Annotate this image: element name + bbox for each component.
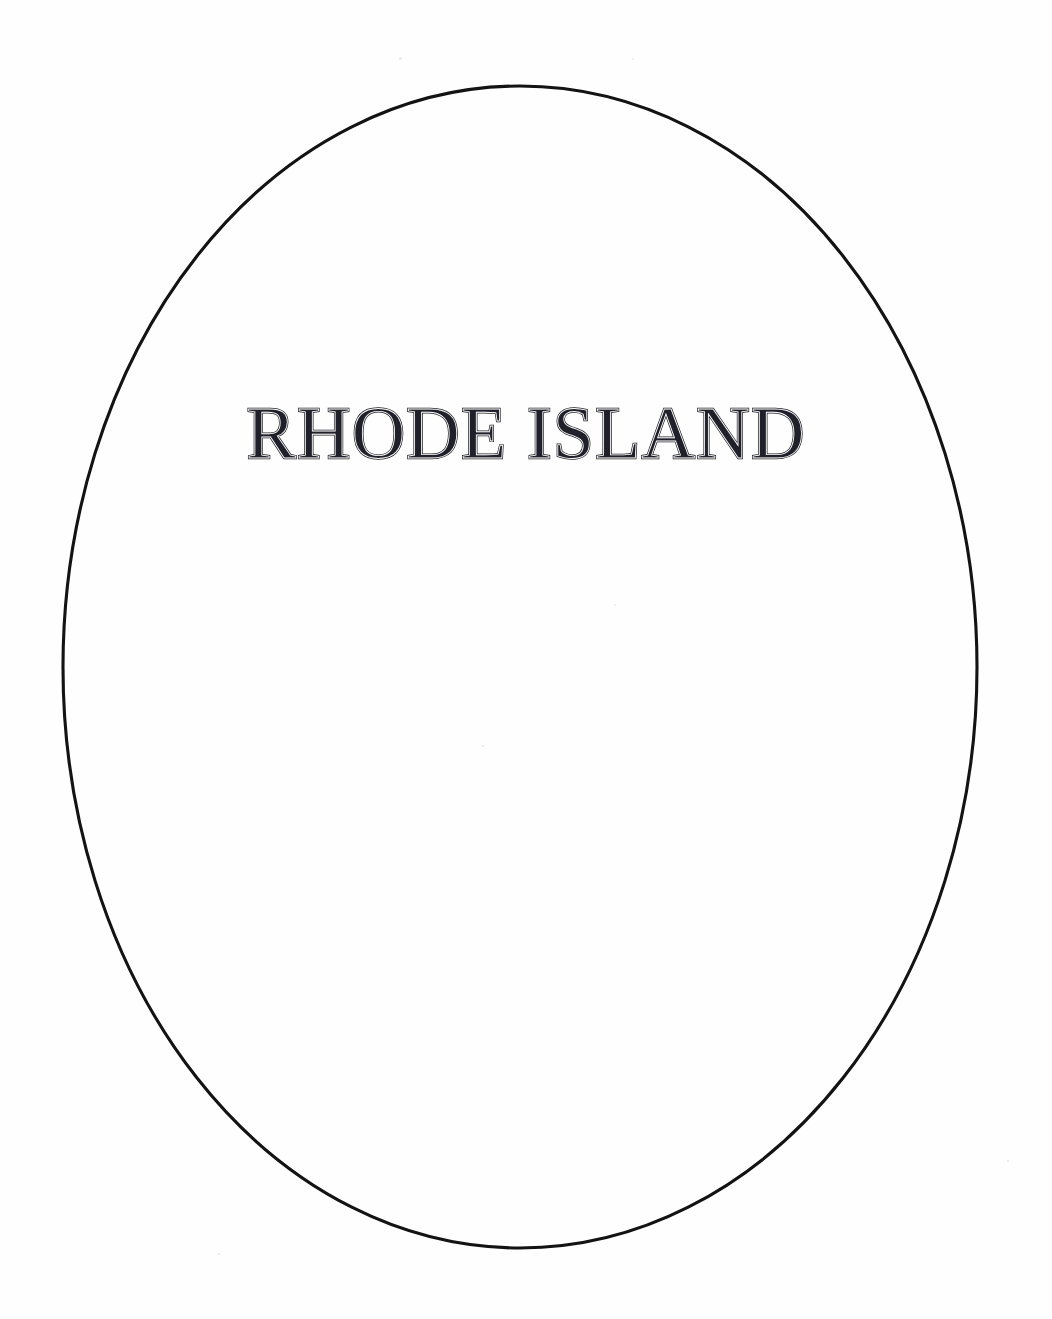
oval-frame-ellipse	[63, 86, 977, 1248]
oval-frame	[0, 0, 1052, 1319]
scan-speck	[632, 58, 634, 60]
page-title-inline-hairline: RHODE ISLAND	[246, 392, 805, 474]
scan-speck	[399, 57, 402, 60]
title-page: RHODE ISLAND RHODE ISLAND RHODE ISLAND R…	[0, 0, 1052, 1319]
scan-speck	[614, 604, 616, 606]
scan-speck	[218, 1253, 220, 1255]
scan-speck	[1007, 1160, 1009, 1162]
page-title: RHODE ISLAND RHODE ISLAND RHODE ISLAND R…	[0, 386, 1052, 482]
page-title-engraved: RHODE ISLAND RHODE ISLAND RHODE ISLAND	[196, 386, 856, 478]
scan-speck	[482, 745, 484, 747]
